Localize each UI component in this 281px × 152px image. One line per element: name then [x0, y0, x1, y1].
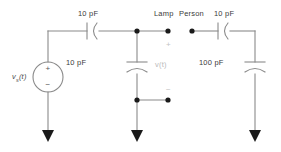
label-capacitor-right-series: 10 pF	[214, 9, 234, 18]
ground-arrow-left	[42, 130, 54, 142]
capacitor-middle-plate-curved	[127, 69, 147, 73]
node-dot-lamp-top	[165, 28, 170, 33]
voltage-source-argument: (t)	[19, 72, 27, 81]
capacitor-right-shunt-plate-curved	[245, 69, 265, 73]
label-terminal-person: Person	[179, 9, 204, 18]
ground-arrow-middle	[131, 130, 143, 142]
label-capacitor-middle-shunt: 10 pF	[66, 58, 86, 67]
label-voltage-source: vs(t)	[12, 72, 27, 83]
label-output-voltage: v(t)	[155, 60, 167, 69]
voltage-source-minus-sign: −	[46, 81, 51, 89]
voltage-source-plus-sign: +	[46, 65, 51, 73]
output-voltage-minus-sign: −	[166, 86, 171, 94]
capacitor-right-series-plate-curved	[225, 23, 229, 39]
node-dot-lamp-bottom	[165, 97, 170, 102]
label-capacitor-left-series: 10 pF	[78, 9, 98, 18]
circuit-diagram-canvas: 10 pF 10 pF 10 pF 100 pF Lamp Person vs(…	[0, 0, 281, 152]
schematic-svg	[0, 0, 281, 152]
ground-arrow-right	[249, 130, 261, 142]
label-terminal-lamp: Lamp	[154, 9, 174, 18]
output-voltage-plus-sign: +	[166, 41, 171, 49]
node-dot-middle-bottom	[134, 97, 139, 102]
node-dot-person-top	[189, 28, 194, 33]
capacitor-left-plate-curved	[94, 23, 98, 39]
node-dot-middle-top	[134, 28, 139, 33]
label-capacitor-right-shunt: 100 pF	[199, 58, 224, 67]
